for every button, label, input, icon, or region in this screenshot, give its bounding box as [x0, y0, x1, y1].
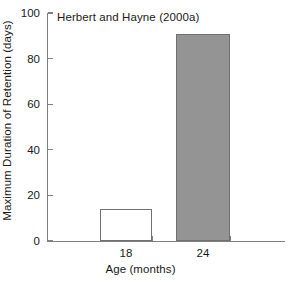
y-tick-label: 60	[27, 98, 40, 110]
y-tick-label: 20	[27, 189, 40, 201]
y-tick-label: 0	[34, 235, 40, 247]
bar-18	[100, 209, 152, 241]
bar-chart-figure: Maximum Duration of Retention (days) Age…	[0, 0, 290, 284]
y-tick-mark	[48, 12, 53, 13]
y-tick-label: 80	[27, 53, 40, 65]
y-axis-title: Maximum Duration of Retention (days)	[0, 0, 14, 241]
y-tick-label: 100	[21, 7, 40, 19]
y-tick-mark	[48, 58, 53, 59]
x-tick-mark	[230, 236, 231, 241]
y-tick-mark	[48, 104, 53, 105]
plot-area: Herbert and Hayne (2000a) 020406080100 1…	[48, 13, 285, 241]
x-tick-label: 24	[197, 247, 210, 259]
x-axis-spine	[47, 241, 285, 242]
chart-annotation: Herbert and Hayne (2000a)	[57, 11, 200, 23]
x-tick-mark	[152, 236, 153, 241]
x-tick-label: 18	[120, 247, 133, 259]
y-tick-mark	[48, 240, 53, 241]
y-axis-spine	[47, 13, 48, 242]
y-tick-label: 40	[27, 144, 40, 156]
x-axis-title: Age (months)	[48, 263, 233, 275]
y-tick-mark	[48, 149, 53, 150]
y-tick-mark	[48, 195, 53, 196]
bar-24	[176, 34, 230, 241]
